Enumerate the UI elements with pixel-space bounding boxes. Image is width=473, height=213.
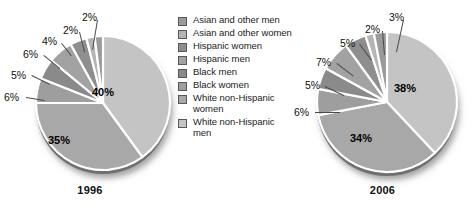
legend-label: Hispanic men [193,53,250,64]
legend-item: Black men [178,66,294,78]
legend-label: Asian and other men [193,14,280,25]
legend-item: White non-Hispanic women [178,92,294,115]
chart-panel-2006: 2006 38%34%6%5%7%5%2%3% [292,0,473,213]
year-label-1996: 1996 [0,184,180,196]
legend-swatch-icon [178,82,187,91]
year-label-2006: 2006 [292,184,473,196]
slice-percent-callout: 7% [316,57,331,68]
pie-2006 [317,32,457,172]
slice-percent-callout: 6% [4,92,19,103]
slice-percent-label: 40% [92,87,114,98]
slice-percent-label: 38% [394,83,416,94]
legend-item: Black women [178,79,294,91]
legend-swatch-icon [178,69,187,78]
pie-chart-figure: 1996 40%35%6%5%6%4%2%2% Asian and other … [0,0,473,213]
legend-swatch-icon [178,30,187,39]
slice-percent-label: 34% [350,133,372,144]
legend-label: Asian and other women [193,27,292,38]
legend-item: Hispanic women [178,40,294,52]
slice-percent-callout: 5% [11,70,26,81]
legend-label: White non-Hispanic women [193,92,294,115]
legend-swatch-icon [178,119,187,128]
legend-item: Asian and other women [178,27,294,39]
slice-percent-callout: 6% [294,107,309,118]
legend-label: White non-Hispanic men [193,116,294,139]
legend-label: Black men [193,66,237,77]
leader-line [315,112,340,113]
pie-1996 [36,36,170,170]
legend-item: White non-Hispanic men [178,116,294,139]
slice-percent-callout: 6% [23,49,38,60]
legend-swatch-icon [178,95,187,104]
legend-item: Hispanic men [178,53,294,65]
slice-percent-label: 35% [48,135,70,146]
legend-swatch-icon [178,43,187,52]
legend-swatch-icon [178,17,187,26]
legend-item: Asian and other men [178,14,294,26]
slice-percent-callout: 4% [42,36,57,47]
slice-percent-callout: 5% [340,38,355,49]
slice-percent-callout: 2% [63,25,78,36]
chart-panel-1996: 1996 40%35%6%5%6%4%2%2% [0,0,180,213]
legend-swatch-icon [178,56,187,65]
legend: Asian and other menAsian and other women… [178,14,294,139]
slice-percent-callout: 2% [82,12,97,23]
legend-label: Black women [193,79,249,90]
slice-percent-callout: 2% [365,24,380,35]
legend-label: Hispanic women [193,40,262,51]
slice-percent-callout: 5% [305,80,320,91]
